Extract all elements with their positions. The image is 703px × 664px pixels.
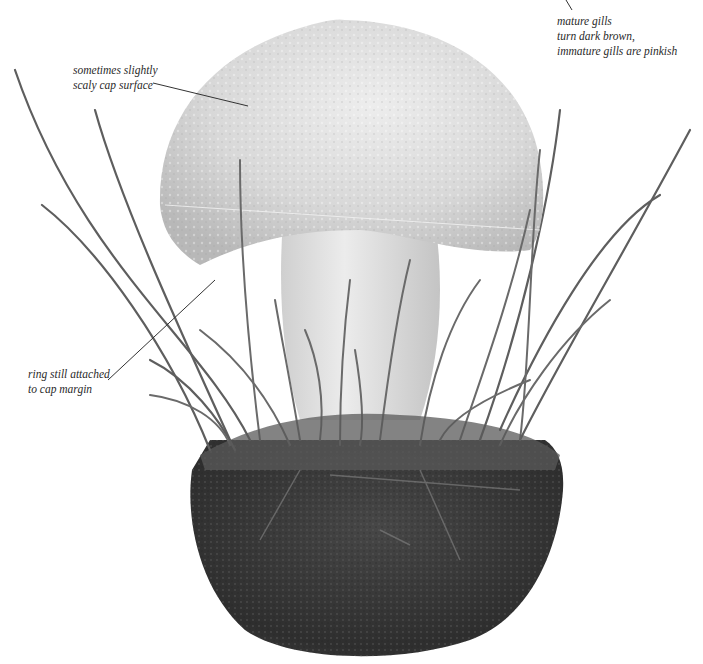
annotation-gills-line-1: mature gills [557,14,677,29]
leader-line-gills [566,0,572,10]
annotation-cap-line-1: sometimes slightly [73,63,158,78]
annotation-gills-line-2: turn dark brown, [557,29,677,44]
annotation-ring-line-1: ring still attached [28,367,110,382]
annotation-gills-line-3: immature gills are pinkish [557,44,677,59]
annotation-ring: ring still attached to cap margin [28,367,110,397]
mushroom-illustration [0,0,703,664]
annotation-ring-line-2: to cap margin [28,382,110,397]
soil-clump [190,440,563,656]
annotation-cap-line-2: scaly cap surface [73,78,158,93]
grass-tuft-base [200,414,560,470]
mushroom-cap [160,19,543,265]
annotation-cap-surface: sometimes slightly scaly cap surface [73,63,158,93]
annotation-gills: mature gills turn dark brown, immature g… [557,14,677,59]
